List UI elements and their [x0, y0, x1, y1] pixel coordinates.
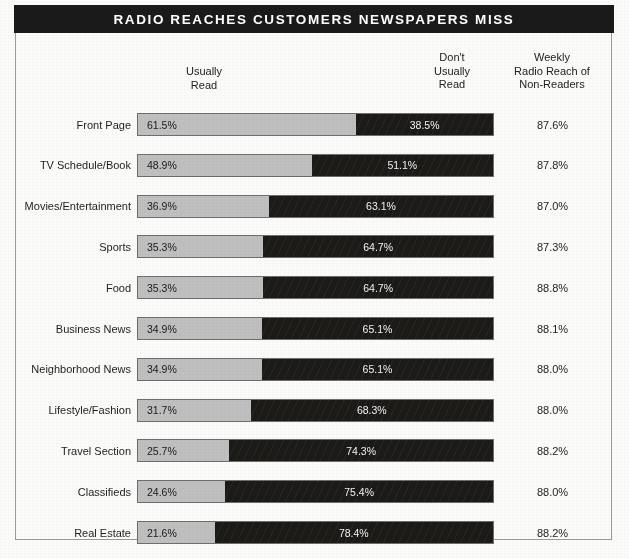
stacked-bar: 36.9%63.1% — [137, 195, 494, 218]
row-weekly-radio-reach-value: 88.1% — [500, 323, 605, 335]
bar-segment-dont-usually-read: 68.3% — [251, 400, 493, 421]
bar-segment-dont-usually-read: 78.4% — [215, 522, 493, 543]
bar-value-usually-read: 48.9% — [147, 159, 177, 171]
bar-value-usually-read: 35.3% — [147, 241, 177, 253]
bar-value-dont-usually-read: 64.7% — [263, 241, 493, 253]
stacked-bar: 35.3%64.7% — [137, 235, 494, 258]
bar-segment-dont-usually-read: 65.1% — [262, 318, 493, 339]
bar-segment-dont-usually-read: 38.5% — [356, 114, 493, 135]
bar-value-dont-usually-read: 38.5% — [356, 119, 493, 131]
row-weekly-radio-reach-value: 88.0% — [500, 404, 605, 416]
chart-row: Sports35.3%64.7%87.3% — [0, 234, 629, 259]
row-category-label: Neighborhood News — [20, 363, 131, 375]
stacked-bar: 48.9%51.1% — [137, 154, 494, 177]
bar-value-usually-read: 25.7% — [147, 445, 177, 457]
row-category-label: Business News — [20, 323, 131, 335]
stacked-bar: 61.5%38.5% — [137, 113, 494, 136]
chart-row: Travel Section25.7%74.3%88.2% — [0, 438, 629, 463]
row-weekly-radio-reach-value: 88.0% — [500, 486, 605, 498]
row-weekly-radio-reach-value: 87.6% — [500, 119, 605, 131]
bar-value-dont-usually-read: 75.4% — [225, 486, 493, 498]
bar-segment-dont-usually-read: 51.1% — [312, 155, 493, 176]
bar-segment-usually-read: 35.3% — [138, 277, 263, 298]
bar-segment-dont-usually-read: 75.4% — [225, 481, 493, 502]
bar-value-usually-read: 21.6% — [147, 527, 177, 539]
bar-value-dont-usually-read: 63.1% — [269, 200, 493, 212]
row-category-label: Lifestyle/Fashion — [20, 404, 131, 416]
bar-segment-dont-usually-read: 74.3% — [229, 440, 493, 461]
stacked-bar: 35.3%64.7% — [137, 276, 494, 299]
row-weekly-radio-reach-value: 87.0% — [500, 200, 605, 212]
chart-row: Front Page61.5%38.5%87.6% — [0, 112, 629, 137]
bar-segment-dont-usually-read: 64.7% — [263, 236, 493, 257]
row-category-label: Classifieds — [20, 486, 131, 498]
bar-segment-dont-usually-read: 65.1% — [262, 359, 493, 380]
bar-segment-usually-read: 35.3% — [138, 236, 263, 257]
bar-value-dont-usually-read: 64.7% — [263, 282, 493, 294]
stacked-bar: 34.9%65.1% — [137, 317, 494, 340]
row-category-label: Front Page — [20, 119, 131, 131]
bar-value-dont-usually-read: 74.3% — [229, 445, 493, 457]
bar-segment-usually-read: 36.9% — [138, 196, 269, 217]
row-weekly-radio-reach-value: 88.0% — [500, 363, 605, 375]
bar-segment-usually-read: 21.6% — [138, 522, 215, 543]
row-weekly-radio-reach-value: 88.2% — [500, 445, 605, 457]
stacked-bar: 25.7%74.3% — [137, 439, 494, 462]
bar-value-dont-usually-read: 68.3% — [251, 404, 493, 416]
row-weekly-radio-reach-value: 87.3% — [500, 241, 605, 253]
bar-segment-dont-usually-read: 64.7% — [263, 277, 493, 298]
row-category-label: Real Estate — [20, 527, 131, 539]
bar-value-dont-usually-read: 51.1% — [312, 159, 493, 171]
chart-row: Food35.3%64.7%88.8% — [0, 275, 629, 300]
bar-segment-usually-read: 31.7% — [138, 400, 251, 421]
row-category-label: Travel Section — [20, 445, 131, 457]
chart-rows-container: Front Page61.5%38.5%87.6%TV Schedule/Boo… — [0, 0, 629, 558]
bar-value-usually-read: 34.9% — [147, 363, 177, 375]
bar-value-usually-read: 34.9% — [147, 323, 177, 335]
bar-segment-usually-read: 25.7% — [138, 440, 229, 461]
bar-value-usually-read: 36.9% — [147, 200, 177, 212]
row-category-label: TV Schedule/Book — [20, 159, 131, 171]
stacked-bar: 21.6%78.4% — [137, 521, 494, 544]
bar-value-dont-usually-read: 65.1% — [262, 323, 493, 335]
row-weekly-radio-reach-value: 88.8% — [500, 282, 605, 294]
chart-row: TV Schedule/Book48.9%51.1%87.8% — [0, 153, 629, 178]
bar-value-usually-read: 61.5% — [147, 119, 177, 131]
bar-value-dont-usually-read: 78.4% — [215, 527, 493, 539]
bar-value-usually-read: 24.6% — [147, 486, 177, 498]
row-weekly-radio-reach-value: 88.2% — [500, 527, 605, 539]
chart-row: Business News34.9%65.1%88.1% — [0, 316, 629, 341]
row-weekly-radio-reach-value: 87.8% — [500, 159, 605, 171]
chart-row: Classifieds24.6%75.4%88.0% — [0, 479, 629, 504]
bar-segment-usually-read: 34.9% — [138, 318, 262, 339]
chart-row: Lifestyle/Fashion31.7%68.3%88.0% — [0, 398, 629, 423]
stacked-bar: 34.9%65.1% — [137, 358, 494, 381]
row-category-label: Food — [20, 282, 131, 294]
row-category-label: Movies/Entertainment — [20, 200, 131, 212]
row-category-label: Sports — [20, 241, 131, 253]
bar-value-dont-usually-read: 65.1% — [262, 363, 493, 375]
stacked-bar: 31.7%68.3% — [137, 399, 494, 422]
bar-segment-usually-read: 48.9% — [138, 155, 312, 176]
chart-row: Neighborhood News34.9%65.1%88.0% — [0, 357, 629, 382]
bar-segment-usually-read: 24.6% — [138, 481, 225, 502]
bar-value-usually-read: 31.7% — [147, 404, 177, 416]
stacked-bar: 24.6%75.4% — [137, 480, 494, 503]
bar-segment-usually-read: 34.9% — [138, 359, 262, 380]
chart-row: Movies/Entertainment36.9%63.1%87.0% — [0, 194, 629, 219]
bar-segment-usually-read: 61.5% — [138, 114, 356, 135]
bar-value-usually-read: 35.3% — [147, 282, 177, 294]
bar-segment-dont-usually-read: 63.1% — [269, 196, 493, 217]
chart-row: Real Estate21.6%78.4%88.2% — [0, 520, 629, 545]
